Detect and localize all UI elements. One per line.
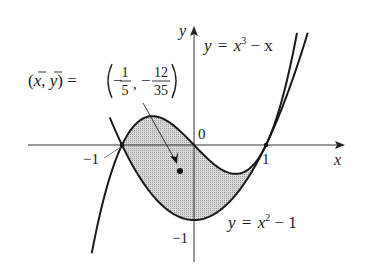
x-tick-label-1: 1 (262, 151, 270, 167)
svg-text:5: 5 (122, 83, 129, 98)
svg-text:(x, y) =: (x, y) = (28, 71, 77, 90)
svg-text:12: 12 (154, 65, 168, 80)
svg-text:−: − (141, 71, 151, 90)
intersection-point-left (120, 143, 124, 147)
y-axis-label: y (177, 22, 187, 40)
x-axis-label: x (333, 151, 341, 168)
parabola-equation-label: y = x2 − 1 (226, 212, 297, 232)
centroid-point (177, 168, 183, 174)
cubic-equation-label: y = x3 − x (202, 35, 273, 55)
intersection-point-right (264, 143, 268, 147)
x-tick-label-neg1: −1 (83, 151, 99, 167)
origin-label: 0 (198, 126, 206, 142)
y-tick-label-neg1: −1 (172, 230, 188, 246)
svg-text:,: , (133, 76, 137, 92)
centroid-diagram: −1 1 −1 0 x y y = x3 − x y = x2 − 1 (x, … (0, 0, 365, 274)
svg-text:35: 35 (154, 83, 168, 98)
centroid-label: (x, y) = − 1 5 , − 12 35 (28, 64, 176, 98)
svg-text:1: 1 (122, 65, 129, 80)
